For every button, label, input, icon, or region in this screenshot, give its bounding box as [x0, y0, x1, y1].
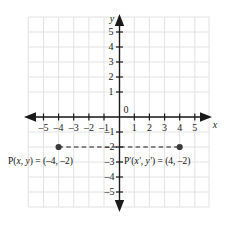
y-tick-label-neg5: –5 — [105, 187, 115, 197]
x-axis — [24, 112, 212, 122]
point-p-prime — [177, 144, 183, 150]
x-axis-right-arrowhead — [200, 112, 212, 122]
y-tick-label-neg3: –3 — [105, 157, 115, 167]
x-axis-name-label: x — [213, 120, 217, 130]
x-axis-left-arrowhead — [24, 112, 36, 122]
point-p-prime-label-middle: ) = ( — [152, 156, 168, 166]
point-p-label-middle: ) = ( — [30, 156, 46, 166]
y-axis-up-arrowhead — [115, 14, 124, 26]
x-tick-label-5: 5 — [192, 123, 197, 133]
y-tick-label-neg2: –2 — [105, 142, 115, 152]
point-p-prime-label-vars: x′, y′ — [135, 156, 152, 166]
y-tick-label-1: 1 — [109, 87, 114, 97]
coordinate-plane-figure: –5 –4 –3 –2 –1 1 2 3 4 5 5 4 3 2 1 –1 –2… — [0, 0, 229, 230]
x-tick-label-neg5: –5 — [39, 123, 49, 133]
x-tick-label-neg3: –3 — [69, 123, 79, 133]
origin-label: 0 — [124, 105, 129, 115]
y-tick-label-neg4: –4 — [105, 172, 115, 182]
point-p-prime-label: P′(x′, y′) = (4, –2) — [124, 157, 190, 167]
grid-lines — [28, 17, 209, 207]
point-p-prime-label-suffix: ) — [187, 156, 190, 166]
y-tick-label-neg1: –1 — [105, 127, 115, 137]
x-tick-label-2: 2 — [147, 123, 152, 133]
x-tick-label-3: 3 — [162, 123, 167, 133]
point-p-label-suffix: ) — [70, 156, 73, 166]
y-axis-name-label: y — [110, 14, 114, 24]
point-p-label-vars: x, y — [16, 156, 29, 166]
point-p — [56, 144, 62, 150]
point-p-prime-label-prefix: P′( — [124, 156, 135, 166]
point-p-prime-label-coords: 4, –2 — [168, 156, 187, 166]
y-tick-label-4: 4 — [109, 42, 114, 52]
x-tick-label-neg2: –2 — [84, 123, 94, 133]
y-tick-label-2: 2 — [109, 72, 114, 82]
point-p-label-coords: –4, –2 — [46, 156, 70, 166]
x-tick-label-4: 4 — [177, 123, 182, 133]
coordinate-plane-svg — [0, 0, 229, 230]
y-axis-down-arrowhead — [115, 200, 124, 212]
y-tick-label-3: 3 — [109, 57, 114, 67]
y-tick-label-5: 5 — [109, 27, 114, 37]
x-tick-label-neg4: –4 — [54, 123, 64, 133]
point-p-label: P(x, y) = (–4, –2) — [8, 157, 73, 167]
x-tick-label-1: 1 — [132, 123, 137, 133]
